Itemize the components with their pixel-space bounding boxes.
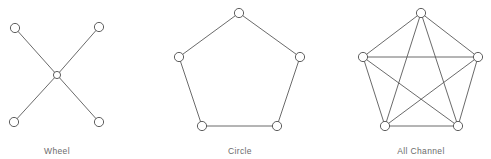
caption-layer: WheelCircleAll Channel [0,0,491,159]
panel-caption-all-channel: All Channel [397,146,444,156]
panel-caption-wheel: Wheel [44,146,70,156]
panel-caption-circle: Circle [228,146,252,156]
network-topology-figure: WheelCircleAll Channel [0,0,491,159]
